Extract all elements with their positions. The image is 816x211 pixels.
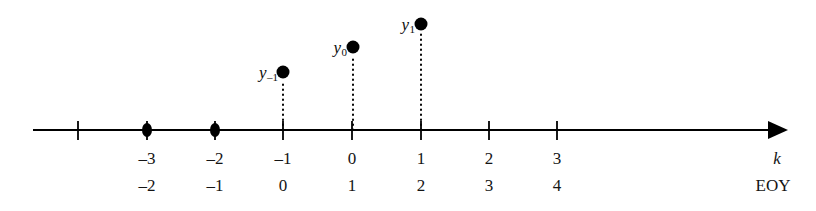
tick-label-eoy-4: 4 <box>553 177 562 194</box>
data-point-label-y-1: y1 <box>401 16 415 33</box>
tick-label-eoy-0: 0 <box>279 177 288 194</box>
point-label-base: y <box>259 63 267 82</box>
data-point-on-axis <box>142 123 152 137</box>
data-point-on-axis <box>210 123 220 137</box>
axis-arrowhead <box>768 121 788 139</box>
tick-label-k-2: 2 <box>485 150 494 167</box>
tick-label-eoy--2: –2 <box>139 177 156 194</box>
tick-label-eoy-1: 1 <box>348 177 357 194</box>
tick-label-k--2: –2 <box>207 150 224 167</box>
tick-label-eoy--1: –1 <box>207 177 224 194</box>
point-label-subscript: 0 <box>341 46 347 58</box>
point-label-base: y <box>401 15 409 34</box>
axis-label-k: k <box>773 150 781 167</box>
axis-label-eoy: EOY <box>756 177 791 194</box>
number-line-figure: y–1 y0 y1 –3 –2 –1 0 1 2 3 k –2 –1 0 1 2… <box>0 0 816 211</box>
tick-label-k-1: 1 <box>417 150 426 167</box>
data-point-label-y-minus-1: y–1 <box>259 64 278 81</box>
tick-label-k--1: –1 <box>275 150 292 167</box>
tick-label-eoy-2: 2 <box>417 177 426 194</box>
data-point-y-minus-1 <box>277 66 290 79</box>
data-point-y-1 <box>415 18 428 31</box>
point-label-base: y <box>333 38 341 57</box>
tick-label-k-0: 0 <box>348 150 357 167</box>
tick-label-k--3: –3 <box>139 150 156 167</box>
tick-label-k-3: 3 <box>553 150 562 167</box>
point-label-subscript: –1 <box>267 71 279 83</box>
tick-label-eoy-3: 3 <box>485 177 494 194</box>
data-point-y-0 <box>347 41 360 54</box>
point-label-subscript: 1 <box>409 23 415 35</box>
data-point-label-y-0: y0 <box>333 39 347 56</box>
